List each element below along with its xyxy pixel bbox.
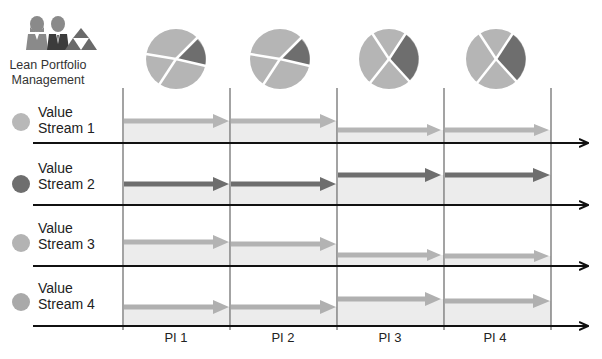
stream-4-label-line2: Stream 4 xyxy=(38,296,95,312)
stream-1-label-line2: Stream 1 xyxy=(38,120,95,136)
stream-2-label-line1: Value xyxy=(38,160,95,176)
pi-2-label: PI 2 xyxy=(253,330,313,345)
stream-4-label-line1: Value xyxy=(38,280,95,296)
pi-4-label: PI 4 xyxy=(465,330,525,345)
stream-4-label: Value Stream 4 xyxy=(38,280,95,312)
pi-3-label: PI 3 xyxy=(360,330,420,345)
lpm-title: Lean Portfolio Management xyxy=(0,58,96,88)
stream-3-label: Value Stream 3 xyxy=(38,220,95,252)
stream-1-label-line1: Value xyxy=(38,104,95,120)
pi-1-label: PI 1 xyxy=(146,330,206,345)
stream-3-label-line1: Value xyxy=(38,220,95,236)
stream-1-dot xyxy=(12,113,30,131)
stream-4-dot xyxy=(12,293,30,311)
people-with-triangles-icon xyxy=(26,16,97,50)
stream-2-dot xyxy=(12,175,30,193)
stream-3-label-line2: Stream 3 xyxy=(38,236,95,252)
stream-2-label: Value Stream 2 xyxy=(38,160,95,192)
lpm-title-line1: Lean Portfolio xyxy=(0,58,96,73)
pie-pi-3 xyxy=(359,29,419,89)
stream-3-dot xyxy=(12,234,30,252)
pie-pi-2 xyxy=(250,29,310,89)
pie-pi-4 xyxy=(466,29,526,89)
stream-2-label-line2: Stream 2 xyxy=(38,176,95,192)
lpm-title-line2: Management xyxy=(0,73,96,88)
stream-1-label: Value Stream 1 xyxy=(38,104,95,136)
pie-pi-1 xyxy=(146,29,206,89)
